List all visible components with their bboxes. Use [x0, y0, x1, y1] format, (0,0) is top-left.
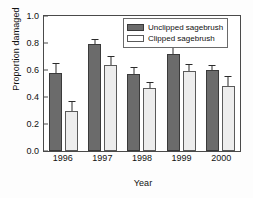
- chart-legend: Unclipped sagebrush Clipped sagebrush: [123, 18, 228, 48]
- bar-unclipped-1996: [49, 73, 62, 151]
- x-axis-label: Year: [43, 178, 243, 188]
- y-tick-label: 0.6: [26, 65, 44, 75]
- legend-swatch-clipped: [127, 35, 144, 42]
- error-bar: [212, 66, 213, 70]
- error-bar: [228, 77, 229, 86]
- bar-unclipped-1997: [88, 44, 101, 151]
- bar-wrapper: [88, 16, 101, 151]
- error-bar-cap: [186, 64, 193, 65]
- bar-wrapper: [49, 16, 62, 151]
- legend-swatch-unclipped: [127, 24, 144, 31]
- bar-group: [45, 16, 82, 151]
- error-bar-cap: [209, 65, 216, 66]
- legend-item-unclipped: Unclipped sagebrush: [127, 22, 223, 33]
- legend-label-unclipped: Unclipped sagebrush: [148, 22, 223, 33]
- error-bar: [55, 64, 56, 73]
- error-bar-cap: [146, 82, 153, 83]
- error-bar-cap: [91, 39, 98, 40]
- error-bar: [189, 65, 190, 71]
- error-bar: [110, 57, 111, 65]
- bar-wrapper: [104, 16, 117, 151]
- y-tick-label: 0.4: [26, 92, 44, 102]
- error-bar-cap: [130, 67, 137, 68]
- error-bar: [71, 102, 72, 110]
- bar-unclipped-1999: [167, 54, 180, 151]
- bar-unclipped-2000: [206, 70, 219, 151]
- bar-clipped-1998: [143, 88, 156, 151]
- legend-label-clipped: Clipped sagebrush: [148, 33, 215, 44]
- bar-group: [84, 16, 121, 151]
- bar-unclipped-1998: [127, 74, 140, 151]
- bar-wrapper: [65, 16, 78, 151]
- y-axis-label: Proportion damaged: [11, 0, 21, 109]
- error-bar-cap: [225, 76, 232, 77]
- x-tick-label-1997: 1997: [84, 153, 122, 169]
- x-tick-label-1996: 1996: [44, 153, 82, 169]
- error-bar: [94, 40, 95, 44]
- error-bar: [173, 48, 174, 53]
- x-tick-label-1998: 1998: [123, 153, 161, 169]
- y-tick-label: 1.0: [26, 11, 44, 21]
- error-bar-cap: [52, 63, 59, 64]
- legend-item-clipped: Clipped sagebrush: [127, 33, 223, 44]
- x-tick-label-2000: 2000: [202, 153, 240, 169]
- y-tick-label: 0.2: [26, 119, 44, 129]
- x-tick-label-1999: 1999: [163, 153, 201, 169]
- chart-figure: Proportion damaged 0.00.20.40.60.81.0 19…: [0, 0, 253, 198]
- bar-clipped-1996: [65, 111, 78, 152]
- x-axis-ticks: 19961997199819992000: [43, 153, 241, 169]
- error-bar-cap: [68, 101, 75, 102]
- y-tick-label: 0.8: [26, 38, 44, 48]
- error-bar-cap: [107, 56, 114, 57]
- error-bar: [149, 83, 150, 88]
- error-bar: [133, 68, 134, 74]
- bar-clipped-2000: [222, 86, 235, 151]
- y-tick-label: 0.0: [26, 146, 44, 156]
- bar-clipped-1999: [183, 71, 196, 151]
- bar-clipped-1997: [104, 65, 117, 151]
